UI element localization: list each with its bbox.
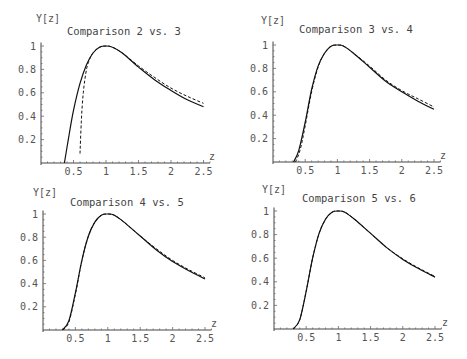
solid-series-line (62, 214, 205, 330)
dashed-series-line (80, 46, 204, 154)
y-axis-label: Y[z] (262, 184, 286, 195)
x-tick-label: 1.5 (131, 333, 149, 344)
chart-panel-3: 0.511.522.50.20.40.60.81Y[z]zComparison … (20, 187, 217, 344)
y-tick-label: 0.2 (18, 134, 36, 145)
x-tick-label: 0.5 (296, 165, 314, 176)
x-tick-label: 1.5 (129, 166, 147, 177)
y-axis-label: Y[z] (33, 187, 57, 198)
y-tick-label: 1 (262, 40, 268, 51)
y-tick-label: 0.2 (251, 300, 269, 311)
x-tick-label: 2 (168, 166, 174, 177)
y-tick-label: 0.8 (20, 232, 38, 243)
x-axis-label: z (209, 151, 215, 162)
x-tick-label: 2 (400, 332, 406, 343)
chart-panel-4: 0.511.522.50.20.40.60.81Y[z]zComparison … (251, 184, 448, 343)
comparison-figure: 0.511.522.50.20.40.60.81Y[z]zComparison … (0, 0, 467, 359)
x-axis-label: z (440, 150, 446, 161)
y-tick-label: 0.6 (20, 255, 38, 266)
y-tick-label: 0.4 (18, 111, 36, 122)
y-tick-label: 0.6 (251, 253, 269, 264)
chart-title: Comparison 4 vs. 5 (70, 196, 184, 208)
x-tick-label: 2.5 (196, 333, 214, 344)
dashed-series-line (293, 211, 435, 329)
x-axis-label: z (442, 317, 448, 328)
chart-title: Comparison 2 vs. 3 (67, 25, 181, 37)
y-tick-label: 0.6 (250, 86, 268, 97)
x-tick-label: 1.5 (361, 165, 379, 176)
dashed-series-line (63, 214, 205, 330)
chart-title: Comparison 3 vs. 4 (299, 23, 413, 35)
y-tick-label: 0.4 (251, 276, 269, 287)
y-tick-label: 0.4 (250, 110, 268, 121)
x-axis-label: z (211, 318, 217, 329)
solid-series-line (293, 211, 435, 329)
y-tick-label: 0.8 (18, 64, 36, 75)
y-tick-label: 0.4 (20, 278, 38, 289)
x-tick-label: 1 (334, 165, 340, 176)
y-axis-label: Y[z] (36, 13, 60, 24)
y-tick-label: 1 (32, 209, 38, 220)
y-tick-label: 0.2 (20, 301, 38, 312)
x-tick-label: 0.5 (64, 166, 82, 177)
x-tick-label: 1 (103, 166, 109, 177)
x-tick-label: 0.5 (297, 332, 315, 343)
x-tick-label: 2.5 (426, 332, 444, 343)
chart-panel-1: 0.511.522.50.20.40.60.81Y[z]zComparison … (18, 13, 215, 177)
x-tick-label: 2.5 (425, 165, 443, 176)
solid-series-line (294, 45, 434, 162)
y-tick-label: 0.2 (250, 133, 268, 144)
chart-title: Comparison 5 vs. 6 (302, 192, 416, 204)
x-tick-label: 1 (105, 333, 111, 344)
x-tick-label: 0.5 (66, 333, 84, 344)
chart-panel-2: 0.511.522.50.20.40.60.81Y[z]zComparison … (250, 15, 446, 176)
x-tick-label: 1.5 (362, 332, 380, 343)
x-tick-label: 1 (335, 332, 341, 343)
y-tick-label: 1 (263, 206, 269, 217)
x-tick-label: 2.5 (194, 166, 212, 177)
y-tick-label: 0.8 (250, 63, 268, 74)
solid-series-line (64, 46, 203, 163)
x-tick-label: 2 (399, 165, 405, 176)
x-tick-label: 2 (170, 333, 176, 344)
y-tick-label: 0.6 (18, 87, 36, 98)
y-axis-label: Y[z] (261, 15, 285, 26)
dashed-series-line (296, 45, 435, 162)
y-tick-label: 0.8 (251, 229, 269, 240)
y-tick-label: 1 (30, 41, 36, 52)
